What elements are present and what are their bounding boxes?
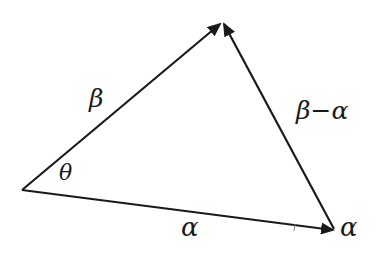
label-beta-minus-alpha: β−α	[296, 98, 348, 123]
vector-triangle-diagram: β θ α α β−α	[0, 0, 387, 262]
label-alpha-endpoint: α	[340, 214, 358, 240]
vector-alpha-arrow	[22, 190, 333, 230]
label-theta-angle: θ	[59, 162, 72, 184]
vector-beta-minus-alpha-arrow	[224, 24, 334, 229]
vector-beta-arrow	[22, 24, 220, 190]
label-beta: β	[89, 86, 103, 111]
label-alpha-edge: α	[181, 214, 199, 240]
